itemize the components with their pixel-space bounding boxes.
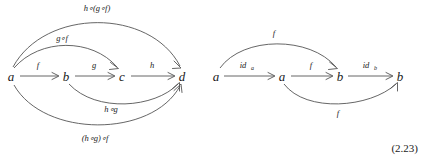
edge-hg-after-f-label: (h∘g)∘f: [82, 133, 110, 143]
identity-diagram: id a f id b f: [213, 28, 404, 118]
edge-f-top-arc-line: [220, 44, 336, 68]
edge-h-label: h: [150, 60, 154, 70]
node-a: a: [8, 69, 15, 84]
edge-f: f: [20, 60, 59, 80]
edge-h-after-g-label: h∘g: [104, 104, 118, 114]
equation-number: (2.23): [391, 142, 418, 155]
edge-f-middle-label: f: [310, 60, 314, 70]
edge-hg-after-f: (h∘g)∘f: [14, 84, 182, 143]
edge-f-middle: f: [291, 60, 333, 80]
edge-id-a: id a: [224, 60, 275, 80]
edge-id-a-label: id: [240, 60, 247, 70]
edge-hg-after-f-arrowhead: [174, 84, 182, 93]
edge-g-after-f: g∘f: [14, 33, 119, 70]
node-d: d: [179, 69, 186, 84]
node-b: b: [63, 69, 70, 84]
edge-g-label: g: [92, 60, 96, 70]
associativity-diagram: f g h g∘f: [8, 3, 186, 143]
edge-f-top-arc-label: f: [273, 28, 277, 38]
edge-h-after-g-arc: [69, 84, 178, 104]
edge-g: g: [75, 60, 115, 80]
commutative-diagram-figure: f g h g∘f: [0, 0, 423, 159]
edge-id-b: id b: [348, 60, 393, 80]
edge-f-bottom-arc-label: f: [337, 108, 341, 118]
node-c: c: [119, 69, 125, 84]
edge-g-after-f-arc: [14, 45, 117, 68]
edge-h-after-gf-label: h∘(g∘f): [84, 3, 111, 13]
edge-f-label: f: [37, 60, 41, 70]
edge-h-after-gf: h∘(g∘f): [13, 3, 181, 69]
edge-id-b-label: id: [363, 60, 370, 70]
edge-h: h: [131, 60, 175, 80]
node-b-second: b: [397, 69, 404, 84]
edge-id-b-label-subscript: b: [374, 65, 377, 71]
edge-f-bottom-arc: f: [284, 83, 398, 119]
edge-h-after-g: h∘g: [69, 83, 180, 115]
node-b-first: b: [337, 69, 344, 84]
diagram-canvas: f g h g∘f: [0, 0, 423, 159]
edge-f-top-arc: f: [220, 28, 338, 70]
node-a-second: a: [279, 69, 286, 84]
edge-id-a-label-subscript: a: [251, 65, 254, 71]
edge-g-after-f-label: g∘f: [56, 33, 69, 43]
edge-hg-after-f-arc: [14, 85, 180, 125]
edge-f-bottom-arc-line: [284, 84, 396, 104]
node-a-first: a: [213, 69, 220, 84]
